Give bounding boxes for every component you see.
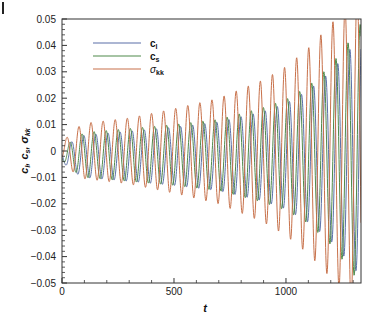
x-axis: 05001000 (59, 278, 353, 297)
svg-text:cl, cs, σkk: cl, cs, σkk (18, 127, 31, 174)
legend-label: σkk (150, 64, 164, 76)
x-tick-label: 1000 (275, 286, 298, 297)
y-axis-label: cl, cs, σkk (18, 127, 31, 174)
x-axis-label: t (203, 302, 208, 314)
y-tick-label: −0.04 (31, 251, 57, 262)
y-tick-label: 0.02 (37, 93, 57, 104)
x-tick-label: 500 (166, 286, 183, 297)
x-tick-label: 0 (59, 286, 65, 297)
legend-label: cl (150, 38, 158, 50)
y-tick-label: −0.01 (31, 172, 57, 183)
y-tick-label: 0.03 (37, 66, 57, 77)
series-layer (62, 0, 361, 302)
y-tick-label: 0 (50, 146, 56, 157)
y-tick-label: −0.05 (31, 278, 57, 289)
legend-label: cs (150, 51, 160, 63)
y-tick-label: 0.01 (37, 119, 57, 130)
y-tick-label: −0.03 (31, 225, 57, 236)
y-tick-label: 0.04 (37, 40, 57, 51)
line-chart: 0.050.040.030.020.010−0.01−0.02−0.03−0.0… (0, 0, 371, 321)
y-tick-label: 0.05 (37, 14, 57, 25)
legend: clcsσkk (93, 38, 164, 76)
y-tick-label: −0.02 (31, 198, 57, 209)
